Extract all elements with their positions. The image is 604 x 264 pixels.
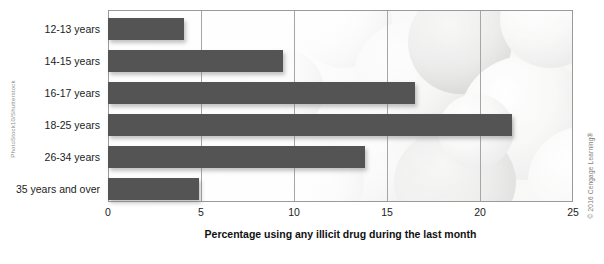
xtick-label-2: 10: [288, 206, 300, 218]
bar-series: [108, 10, 573, 202]
category-label-1: 14-15 years: [45, 55, 100, 67]
copyright-notice: © 2016 Cengage Learning®: [587, 116, 594, 236]
bar-35-years-and-over: [108, 178, 199, 200]
xtick-label-5: 25: [567, 206, 579, 218]
photo-credit: PhotoStock10/Shutterstock: [10, 59, 16, 179]
bar-row: [108, 18, 184, 50]
bar-row: [108, 82, 415, 114]
xtick-label-4: 20: [474, 206, 486, 218]
category-label-2: 16-17 years: [45, 87, 100, 99]
chart-figure: 12-13 years 14-15 years 16-17 years 18-2…: [0, 0, 604, 264]
bar-18-25-years: [108, 114, 512, 136]
bar-row: [108, 146, 365, 178]
bar-26-34-years: [108, 146, 365, 168]
bar-row: [108, 178, 199, 210]
xtick-label-3: 15: [381, 206, 393, 218]
category-label-4: 26-34 years: [45, 151, 100, 163]
category-label-3: 18-25 years: [45, 119, 100, 131]
xtick-label-1: 5: [198, 206, 204, 218]
bar-14-15-years: [108, 50, 283, 72]
bar-row: [108, 114, 512, 146]
bar-12-13-years: [108, 18, 184, 40]
bar-row: [108, 50, 283, 82]
category-label-5: 35 years and over: [16, 183, 100, 195]
xtick-label-0: 0: [105, 206, 111, 218]
bar-16-17-years: [108, 82, 415, 104]
category-label-0: 12-13 years: [45, 23, 100, 35]
x-axis-title: Percentage using any illicit drug during…: [108, 228, 573, 241]
